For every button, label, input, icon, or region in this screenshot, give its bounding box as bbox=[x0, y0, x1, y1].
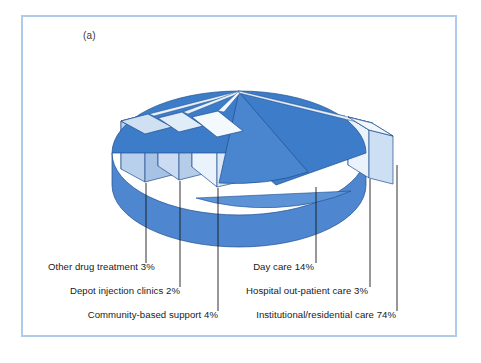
callout-label-other-drug-treatment: Other drug treatment 3% bbox=[48, 261, 146, 272]
callout-label-hospital-out-patient-care: Hospital out-patient care 3% bbox=[222, 285, 368, 296]
callout-label-depot-injection-clinics: Depot injection clinics 2% bbox=[68, 285, 180, 296]
callout-label-institutional-residential-care: Institutional/residential care 74% bbox=[222, 309, 396, 320]
callout-label-community-based-support: Community-based support 4% bbox=[74, 309, 218, 320]
figure-root: (a) bbox=[0, 0, 481, 363]
callout-label-day-care: Day care 14% bbox=[230, 261, 314, 272]
